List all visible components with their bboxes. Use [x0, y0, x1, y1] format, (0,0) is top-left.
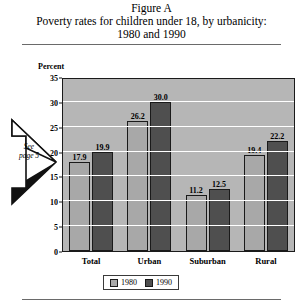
title-line-2: Poverty rates for children under 18, by … [0, 15, 303, 28]
gridline [63, 175, 294, 176]
bar-value-label: 17.9 [73, 153, 87, 162]
title-line-3: 1980 and 1990 [0, 28, 303, 41]
see-page-annotation: See page 5 [12, 142, 46, 160]
figure-title: Figure A Poverty rates for children unde… [0, 2, 303, 41]
figure-page: Figure A Poverty rates for children unde… [0, 0, 303, 306]
legend-swatch [110, 279, 118, 287]
legend-item: 1980 [110, 278, 137, 287]
title-line-1: Figure A [0, 2, 303, 15]
bar-value-label: 22.2 [270, 132, 284, 141]
legend-item: 1990 [145, 278, 172, 287]
gridline [63, 225, 294, 226]
title-divider-top [22, 44, 281, 45]
x-axis-tick-label: Total [82, 256, 101, 266]
bar-value-label: 12.5 [212, 180, 226, 189]
see-page-line-1: See [12, 142, 46, 151]
y-axis-tick-label: 5 [54, 223, 58, 232]
gridline [63, 126, 294, 127]
figure-divider-bottom [22, 299, 281, 300]
x-axis-tick-label: Urban [138, 256, 162, 266]
bar: 26.2 [127, 121, 148, 251]
bar: 22.2 [267, 141, 288, 251]
chart-legend: 19801990 [103, 275, 179, 290]
bar: 11.2 [186, 195, 207, 251]
y-axis-tick-label: 35 [50, 74, 58, 83]
gridline [63, 200, 294, 201]
gridline [63, 151, 294, 152]
bar: 19.9 [92, 152, 113, 251]
gridline [63, 101, 294, 102]
y-axis-title: Percent [38, 62, 64, 71]
x-axis-tick-label: Rural [255, 256, 276, 266]
plot-area: 17.919.926.230.011.212.519.422.2 [62, 78, 295, 252]
legend-label: 1990 [156, 278, 172, 287]
bar: 19.4 [244, 155, 265, 251]
x-axis: TotalUrbanSuburbanRural [62, 256, 295, 270]
see-page-line-2: page 5 [12, 151, 46, 160]
y-axis-tick-label: 30 [50, 98, 58, 107]
legend-swatch [145, 279, 153, 287]
bar-value-label: 26.2 [131, 112, 145, 121]
right-arrow-icon [2, 118, 58, 206]
x-axis-tick-label: Suburban [189, 256, 225, 266]
bar: 12.5 [209, 189, 230, 251]
y-axis-tick-label: 0 [54, 248, 58, 257]
bar-value-label: 11.2 [189, 186, 203, 195]
legend-label: 1980 [121, 278, 137, 287]
